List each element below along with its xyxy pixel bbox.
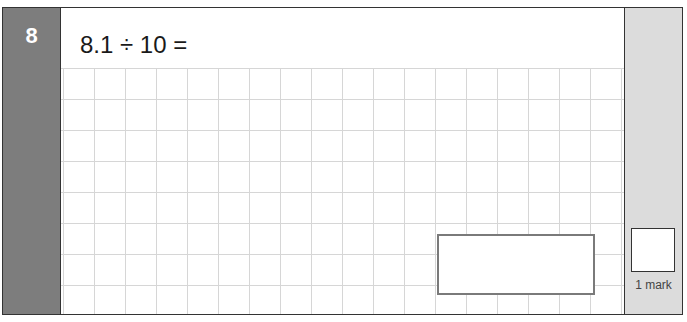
mark-box[interactable] bbox=[631, 228, 675, 272]
answer-box[interactable] bbox=[437, 234, 595, 295]
mark-panel: 1 mark bbox=[624, 8, 682, 314]
mark-label: 1 mark bbox=[625, 278, 682, 292]
question-card: 8 8.1 ÷ 10 = 1 mark bbox=[2, 7, 683, 315]
question-number: 8 bbox=[3, 23, 60, 49]
question-number-panel: 8 bbox=[3, 8, 61, 314]
question-text: 8.1 ÷ 10 = bbox=[80, 31, 187, 59]
